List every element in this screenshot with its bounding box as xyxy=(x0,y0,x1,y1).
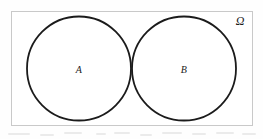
omega-label: Ω xyxy=(236,15,245,27)
venn-diagram-figure: A B Ω xyxy=(0,0,263,139)
scan-smudge xyxy=(40,134,54,136)
set-b-label: B xyxy=(181,65,187,75)
scan-smudge xyxy=(162,132,182,134)
scan-smudge xyxy=(114,132,130,134)
scan-smudge xyxy=(140,134,152,136)
set-a-label: A xyxy=(76,65,82,75)
scan-smudge xyxy=(8,133,30,135)
scan-artifact-band xyxy=(0,129,263,139)
scan-smudge xyxy=(192,133,206,135)
scan-smudge xyxy=(242,133,256,135)
scan-smudge xyxy=(216,132,234,134)
scan-smudge xyxy=(96,133,106,135)
scan-smudge xyxy=(64,132,82,134)
universal-set-box xyxy=(11,11,253,126)
